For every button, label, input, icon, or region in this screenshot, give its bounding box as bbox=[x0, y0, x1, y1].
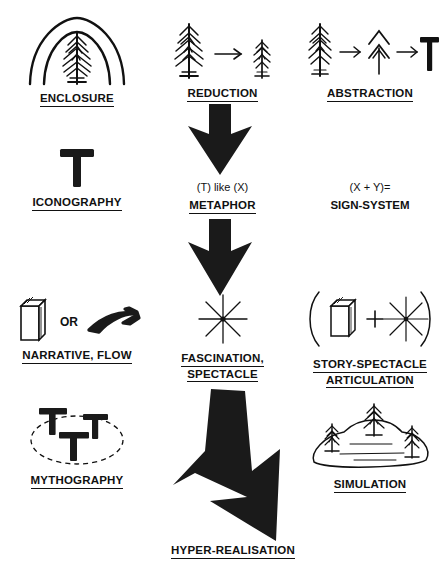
mythography-icon-box bbox=[21, 404, 133, 470]
thick-down-arrow-icon bbox=[186, 104, 254, 176]
abstraction-icon-box bbox=[300, 18, 440, 82]
cell-sign-system: (X + Y)= SIGN-SYSTEM bbox=[300, 180, 440, 212]
cell-simulation: SIMULATION bbox=[300, 400, 440, 493]
narrative-flow-icon-box: OR bbox=[11, 294, 143, 344]
tree-under-two-arcs-icon bbox=[22, 12, 132, 88]
mythography-label: MYTHOGRAPHY bbox=[31, 474, 124, 489]
metaphor-label: METAPHOR bbox=[189, 199, 256, 214]
arrow-spectacle-to-hyper-realisation bbox=[173, 389, 295, 541]
book-or-swoosh-group-icon: OR bbox=[11, 294, 143, 344]
narrative-flow-label: NARRATIVE, FLOW bbox=[22, 349, 131, 364]
fascination-label-line1: FASCINATION, bbox=[181, 352, 264, 367]
parenthesised-book-plus-star-icon bbox=[303, 288, 437, 350]
enclosure-icon-box bbox=[22, 12, 132, 88]
fascination-label-line2: SPECTACLE bbox=[187, 368, 258, 383]
three-t-glyphs-in-dashed-ellipse-icon bbox=[21, 404, 133, 470]
arrow-metaphor-to-spectacle bbox=[186, 219, 254, 297]
cell-enclosure: ENCLOSURE bbox=[14, 12, 140, 107]
swoosh-flow-arrow-icon bbox=[89, 308, 139, 332]
sign-system-formula: (X + Y)= bbox=[350, 180, 391, 195]
story-spectacle-label-line1: STORY-SPECTACLE bbox=[313, 358, 427, 373]
cell-reduction: REDUCTION bbox=[155, 18, 290, 102]
simulation-icon-box bbox=[304, 400, 436, 472]
thick-down-arrow-icon bbox=[186, 219, 254, 297]
arrow-reduction-to-metaphor bbox=[186, 104, 254, 176]
reduction-icon-box bbox=[163, 18, 283, 82]
book-icon bbox=[331, 297, 355, 336]
cell-mythography: MYTHOGRAPHY bbox=[14, 404, 140, 489]
cell-story-spectacle-articulation: STORY-SPECTACLE ARTICULATION bbox=[300, 288, 440, 388]
t-glyph-icon bbox=[53, 146, 101, 190]
tree-arrow-chevron-tree-arrow-t-glyph-icon bbox=[300, 18, 440, 82]
large-diagonal-down-arrow-icon bbox=[173, 389, 295, 541]
cell-fascination-spectacle: FASCINATION, SPECTACLE bbox=[155, 292, 290, 382]
enclosure-label: ENCLOSURE bbox=[40, 92, 114, 107]
hyper-realisation-label: HYPER-REALISATION bbox=[171, 544, 295, 559]
simulation-label: SIMULATION bbox=[334, 478, 407, 493]
sign-system-label: SIGN-SYSTEM bbox=[330, 198, 409, 212]
three-trees-on-hill-icon bbox=[304, 400, 436, 472]
metaphor-formula: (T) like (X) bbox=[197, 180, 248, 195]
narrative-or-connector: OR bbox=[60, 315, 78, 329]
story-spectacle-icon-box bbox=[303, 288, 437, 350]
story-spectacle-label-line2: ARTICULATION bbox=[326, 374, 414, 389]
book-icon bbox=[21, 297, 45, 340]
fascination-icon-box bbox=[196, 292, 250, 346]
cell-metaphor: (T) like (X) METAPHOR bbox=[155, 180, 290, 214]
cell-narrative-flow: OR NARRATIVE, FLOW bbox=[8, 294, 146, 364]
diagram-canvas: ENCLOSURE bbox=[0, 0, 443, 577]
cell-hyper-realisation: HYPER-REALISATION bbox=[143, 544, 323, 559]
reduction-label: REDUCTION bbox=[187, 87, 257, 102]
abstraction-label: ABSTRACTION bbox=[327, 87, 413, 102]
cell-iconography: ICONOGRAPHY bbox=[14, 146, 140, 211]
plus-icon bbox=[367, 311, 383, 327]
cell-abstraction: ABSTRACTION bbox=[300, 18, 440, 102]
iconography-icon-box bbox=[53, 146, 101, 190]
iconography-label: ICONOGRAPHY bbox=[32, 196, 121, 211]
large-tree-arrow-small-tree-icon bbox=[163, 18, 283, 82]
eight-point-star-icon bbox=[196, 292, 250, 346]
